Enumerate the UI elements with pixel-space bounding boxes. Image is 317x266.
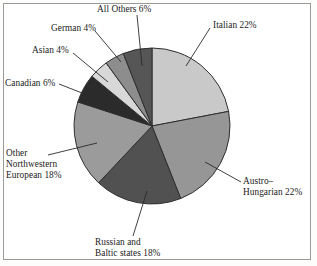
slice-label-asian: Asian 4% (32, 45, 69, 56)
leader-line-italian (186, 28, 210, 66)
slice-label-italian: Italian 22% (213, 20, 257, 31)
pie-chart-svg (0, 0, 317, 266)
slice-label-other-northwestern-european: Other Northwestern European 18% (6, 148, 62, 182)
pie-chart-figure: Italian 22% Austro– Hungarian 22% Russia… (0, 0, 317, 266)
slice-label-all-others: All Others 6% (97, 4, 151, 15)
slice-label-canadian: Canadian 6% (5, 78, 55, 89)
slice-label-russian-baltic: Russian and Baltic states 18% (95, 237, 160, 259)
leader-line-german (95, 31, 121, 62)
slice-label-german: German 4% (51, 23, 96, 34)
pie-slices-group (74, 48, 230, 204)
slice-label-austro-hungarian: Austro– Hungarian 22% (243, 176, 302, 198)
